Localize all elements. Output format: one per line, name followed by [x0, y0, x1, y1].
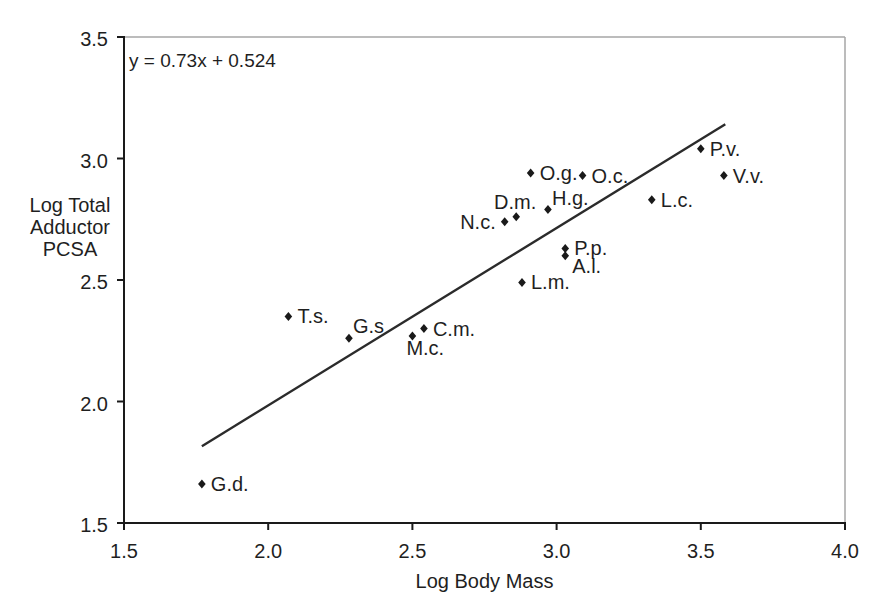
point-label: T.s.	[297, 305, 328, 327]
trend-line	[202, 124, 725, 446]
data-point	[512, 212, 520, 221]
y-axis-title: Log TotalAdductorPCSA	[8, 194, 132, 260]
regression-equation: y = 0.73x + 0.524	[129, 50, 276, 72]
y-tick-label: 1.5	[80, 514, 108, 536]
scatter-figure: 1.52.02.53.03.54.03.53.02.52.01.5G.d.T.s…	[0, 0, 883, 616]
point-label: C.m.	[433, 318, 475, 340]
x-tick-label: 3.5	[687, 540, 715, 562]
data-point	[285, 312, 293, 321]
data-point	[501, 217, 509, 226]
x-tick-label: 1.5	[110, 540, 138, 562]
data-point	[720, 171, 728, 180]
point-label: M.c.	[406, 337, 444, 359]
point-label: P.v.	[710, 138, 740, 160]
point-label: A.l.	[572, 255, 601, 277]
point-label: N.c.	[460, 211, 496, 233]
y-tick-label: 2.5	[80, 271, 108, 293]
data-point	[579, 171, 587, 180]
data-point	[527, 169, 535, 178]
point-label: V.v.	[733, 165, 764, 187]
point-label: O.c.	[592, 165, 629, 187]
point-label: G.d.	[211, 473, 249, 495]
plot-area: 1.52.02.53.03.54.03.53.02.52.01.5G.d.T.s…	[0, 0, 883, 616]
x-tick-label: 2.5	[398, 540, 426, 562]
y-axis-title-line: Adductor	[8, 216, 132, 238]
data-point	[697, 144, 705, 153]
x-tick-label: 3.0	[543, 540, 571, 562]
point-label: G.s	[353, 315, 384, 337]
data-point	[561, 251, 569, 260]
y-tick-label: 2.0	[80, 393, 108, 415]
data-point	[518, 278, 526, 287]
point-label: L.m.	[531, 271, 570, 293]
x-axis-title: Log Body Mass	[124, 570, 845, 593]
x-tick-label: 2.0	[254, 540, 282, 562]
point-label: L.c.	[661, 189, 693, 211]
data-point	[420, 324, 428, 333]
data-point	[198, 480, 206, 489]
y-tick-label: 3.5	[80, 28, 108, 50]
y-axis-title-line: PCSA	[8, 238, 132, 260]
y-axis-title-line: Log Total	[8, 194, 132, 216]
x-tick-label: 4.0	[831, 540, 859, 562]
data-point	[544, 205, 552, 214]
y-tick-label: 3.0	[80, 150, 108, 172]
data-point	[345, 334, 353, 343]
point-label: D.m.	[494, 191, 536, 213]
data-point	[648, 195, 656, 204]
point-label: O.g.	[540, 162, 578, 184]
point-label: H.g.	[552, 187, 589, 209]
